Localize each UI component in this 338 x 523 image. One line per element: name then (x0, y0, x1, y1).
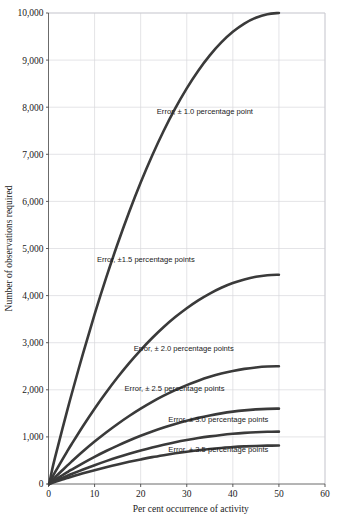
x-tick-label: 40 (228, 489, 238, 499)
y-tick-label: 7,000 (22, 150, 44, 160)
y-tick-label: 3,000 (22, 338, 44, 348)
y-tick-label: 0 (39, 479, 44, 489)
y-tick-label: 1,000 (22, 432, 44, 442)
x-tick-label: 20 (136, 489, 146, 499)
annotation-error-2-5: Error, ± 2.5 percentage points (125, 384, 225, 393)
annotation-error-3: Error, ± 3.0 percentage points (168, 415, 268, 424)
annotation-error-2: Error, ± 2.0 percentage points (134, 344, 234, 353)
y-axis-title: Number of observations required (4, 185, 14, 311)
y-tick-label: 6,000 (22, 197, 44, 207)
y-tick-label: 8,000 (22, 103, 44, 113)
y-tick-label: 10,000 (17, 8, 43, 18)
annotation-error-1: Error, ± 1.0 percentage point (157, 107, 254, 116)
annotation-error-3-5: Error, ± 3.5 percentage points (168, 445, 268, 454)
x-axis-title: Per cent occurrence of activity (133, 504, 249, 514)
x-tick-label: 0 (46, 489, 51, 499)
y-tick-label: 2,000 (22, 385, 44, 395)
annotation-error-1-5: Error, ±1.5 percentage points (97, 255, 195, 264)
observations-required-chart: 01,0002,0003,0004,0005,0006,0007,0008,00… (0, 0, 338, 523)
y-tick-label: 9,000 (22, 56, 44, 66)
x-tick-label: 60 (320, 489, 330, 499)
chart-container: 01,0002,0003,0004,0005,0006,0007,0008,00… (0, 0, 338, 523)
x-tick-label: 30 (182, 489, 192, 499)
x-tick-label: 10 (90, 489, 100, 499)
y-tick-label: 5,000 (22, 244, 44, 254)
y-tick-label: 4,000 (22, 291, 44, 301)
x-tick-label: 50 (274, 489, 284, 499)
